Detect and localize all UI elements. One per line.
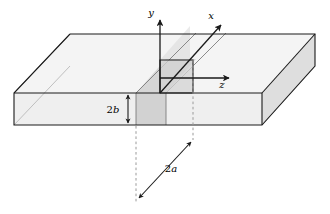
core-front-strip <box>136 93 166 125</box>
y-axis-label: y <box>147 7 154 18</box>
thickness-dimension-label: 2b <box>107 104 120 115</box>
width-dimension-label: 2a <box>165 163 177 174</box>
slab-waveguide-diagram: y x z 2b 2a <box>0 0 330 214</box>
figure-canvas: y x z 2b 2a <box>0 0 330 214</box>
width-dimension: 2a <box>139 142 191 198</box>
z-axis-label: z <box>218 79 225 90</box>
x-axis-label: x <box>208 10 214 21</box>
